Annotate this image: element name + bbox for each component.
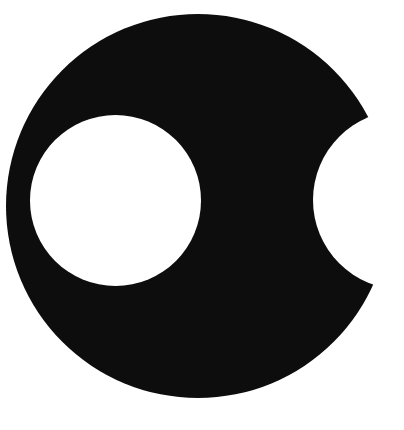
black-disc-shape	[6, 14, 390, 398]
shape-figure	[0, 0, 404, 430]
